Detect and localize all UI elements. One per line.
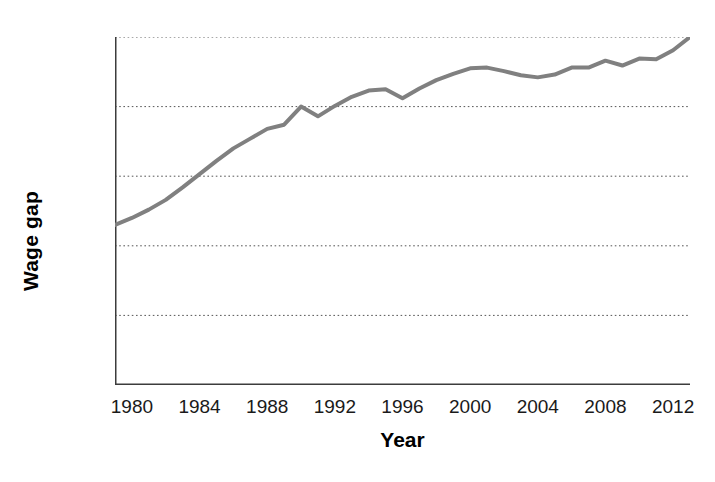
x-tick-label: 2012 (652, 396, 694, 418)
x-axis-title: Year (115, 428, 690, 452)
axis-spine (116, 37, 691, 385)
chart-canvas (115, 37, 690, 385)
x-tick-label: 1980 (111, 396, 153, 418)
x-tick-label: 1996 (381, 396, 423, 418)
x-tick-label: 2000 (449, 396, 491, 418)
x-tick-label: 2008 (584, 396, 626, 418)
gridlines-group (115, 37, 690, 315)
wage-gap-line-chart: Wage gap Year 50%40%30%20%10%0 198019841… (0, 0, 715, 482)
x-tick-label: 1988 (246, 396, 288, 418)
x-tick-label: 1992 (314, 396, 356, 418)
x-tick-label: 1984 (178, 396, 220, 418)
x-tick-label: 2004 (517, 396, 559, 418)
y-axis-title: Wage gap (0, 0, 62, 482)
plot-area (115, 37, 690, 385)
data-line-wage-gap (115, 37, 690, 225)
